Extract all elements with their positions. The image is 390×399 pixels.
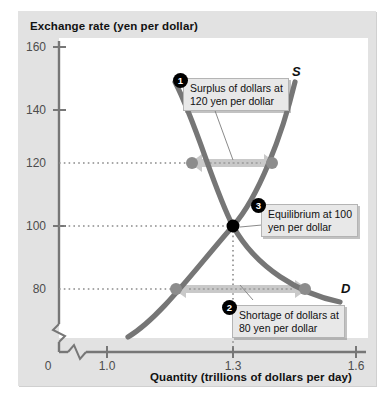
y-tick-label-120: 120 <box>16 156 46 170</box>
x-axis-title: Quantity (trillions of dollars per day) <box>150 371 352 383</box>
y-tick-label-100: 100 <box>16 219 46 233</box>
leader-line-callout-3 <box>240 225 262 227</box>
callout-surplus-line2: 120 yen per dollar <box>190 95 283 108</box>
marker-quantity-demanded-80 <box>299 283 311 295</box>
callout-equilibrium-line1: Equilibrium at 100 <box>268 208 352 221</box>
marker-quantity-demanded-120 <box>186 157 198 169</box>
y-axis-title: Exchange rate (yen per dollar) <box>30 20 198 32</box>
exchange-rate-market-figure: Exchange rate (yen per dollar) Quantity … <box>0 0 390 399</box>
y-axis-break-mark <box>53 324 65 342</box>
callout-shortage: Shortage of dollars at 80 yen per dollar <box>232 305 345 338</box>
callout-shortage-line1: Shortage of dollars at <box>239 309 339 322</box>
callout-equilibrium-line2: yen per dollar <box>268 221 352 234</box>
x-tick-label-1-3: 1.3 <box>216 359 250 373</box>
y-tick-label-140: 140 <box>16 103 46 117</box>
callout-shortage-line2: 80 yen per dollar <box>239 322 339 335</box>
chart-graphics <box>0 0 390 399</box>
supply-curve-label: S <box>292 64 301 79</box>
y-tick-label-80: 80 <box>16 282 46 296</box>
marker-quantity-supplied-120 <box>266 157 278 169</box>
leader-line-callout-1 <box>214 108 233 160</box>
callout-badge-3: 3 <box>251 198 266 213</box>
callout-surplus-line1: Surplus of dollars at <box>190 82 283 95</box>
callout-badge-2: 2 <box>222 300 237 315</box>
marker-equilibrium <box>227 220 240 233</box>
callout-equilibrium: Equilibrium at 100 yen per dollar <box>261 204 358 237</box>
callout-surplus: Surplus of dollars at 120 yen per dollar <box>183 78 289 111</box>
x-tick-label-1-6: 1.6 <box>339 359 373 373</box>
x-tick-label-1-0: 1.0 <box>90 359 124 373</box>
marker-quantity-supplied-80 <box>170 283 182 295</box>
demand-curve-label: D <box>341 281 350 296</box>
x-tick-label-0: 0 <box>31 359 65 373</box>
y-tick-label-160: 160 <box>16 40 46 54</box>
callout-badge-1: 1 <box>173 73 188 88</box>
x-axis-break-mark <box>68 345 86 359</box>
